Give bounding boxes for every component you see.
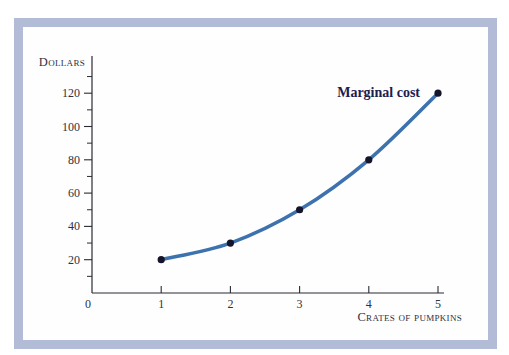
y-tick-label: 40 [68, 219, 80, 233]
page: 01234520406080100120DollarsCrates of pum… [0, 0, 509, 355]
y-tick-label: 80 [68, 153, 80, 167]
data-point [296, 206, 303, 213]
x-tick-label: 3 [297, 297, 303, 311]
marginal-cost-chart: 01234520406080100120DollarsCrates of pum… [0, 0, 509, 355]
x-tick-label: 0 [85, 297, 91, 311]
y-tick-label: 20 [68, 253, 80, 267]
y-tick-label: 120 [62, 86, 80, 100]
x-tick-label: 4 [366, 297, 372, 311]
x-tick-label: 5 [435, 297, 441, 311]
data-point [227, 239, 234, 246]
data-point [158, 256, 165, 263]
x-tick-label: 2 [227, 297, 233, 311]
x-tick-label: 1 [158, 297, 164, 311]
data-point [365, 156, 372, 163]
marginal-cost-line [161, 93, 438, 260]
y-tick-label: 60 [68, 186, 80, 200]
data-point [434, 90, 441, 97]
y-axis-caption: Dollars [39, 55, 85, 69]
series-label: Marginal cost [337, 85, 420, 100]
y-tick-label: 100 [62, 120, 80, 134]
x-axis-caption: Crates of pumpkins [357, 310, 462, 324]
